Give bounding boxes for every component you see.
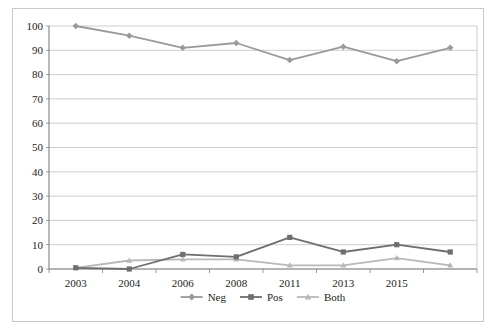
y-axis-tick-label: 50 [32, 141, 44, 153]
data-point [127, 266, 132, 271]
data-point [126, 32, 133, 39]
x-axis-tick-label: 2015 [386, 277, 409, 289]
series-line [76, 26, 451, 61]
y-axis-tick-label: 80 [32, 68, 44, 80]
legend-item-pos[interactable]: Pos [240, 291, 283, 303]
y-axis-tick-label: 0 [38, 263, 44, 275]
legend-marker [248, 294, 254, 300]
y-axis-tick-label: 100 [27, 20, 44, 32]
data-point [287, 235, 292, 240]
legend-item-both[interactable]: Both [297, 291, 346, 303]
series-neg [73, 23, 454, 65]
y-axis-tick-label: 20 [32, 214, 44, 226]
y-axis-tick-label: 30 [32, 190, 44, 202]
data-point [287, 57, 294, 64]
data-point [234, 254, 239, 259]
x-axis-tick-label: 2013 [332, 277, 355, 289]
data-point [73, 265, 78, 270]
chart-frame: 0102030405060708090100200320042006200820… [12, 8, 484, 322]
x-axis-tick-label: 2008 [225, 277, 248, 289]
y-axis-tick-label: 90 [32, 44, 44, 56]
data-point [394, 242, 399, 247]
y-axis-tick-label: 70 [32, 93, 44, 105]
data-point [340, 43, 347, 50]
legend-marker [188, 294, 195, 301]
x-axis-tick-label: 2011 [279, 277, 301, 289]
gridlines [46, 26, 477, 269]
data-point [233, 40, 240, 46]
data-point [341, 249, 346, 254]
series-pos [73, 235, 453, 272]
data-point [180, 252, 185, 257]
legend-label: Neg [208, 291, 227, 303]
y-axis-tick-label: 60 [32, 117, 44, 129]
line-chart: 0102030405060708090100200320042006200820… [13, 9, 485, 323]
x-axis-tick-label: 2006 [172, 277, 195, 289]
x-axis-tick-label: 2004 [118, 277, 141, 289]
legend-label: Both [324, 291, 346, 303]
y-axis-tick-label: 10 [32, 239, 44, 251]
data-point [448, 249, 453, 254]
x-axis-ticks: 2003200420062008201120132015 [49, 269, 477, 289]
legend: NegPosBoth [181, 291, 346, 303]
data-point [73, 23, 80, 30]
series-line [76, 237, 451, 269]
chart-canvas: 0102030405060708090100200320042006200820… [13, 9, 485, 323]
y-axis-tick-label: 40 [32, 166, 44, 178]
data-point [394, 58, 401, 65]
series-line [76, 258, 451, 268]
legend-item-neg[interactable]: Neg [181, 291, 227, 303]
x-axis-tick-label: 2003 [65, 277, 88, 289]
y-axis-tick-labels: 0102030405060708090100 [27, 20, 44, 275]
legend-label: Pos [267, 291, 283, 303]
